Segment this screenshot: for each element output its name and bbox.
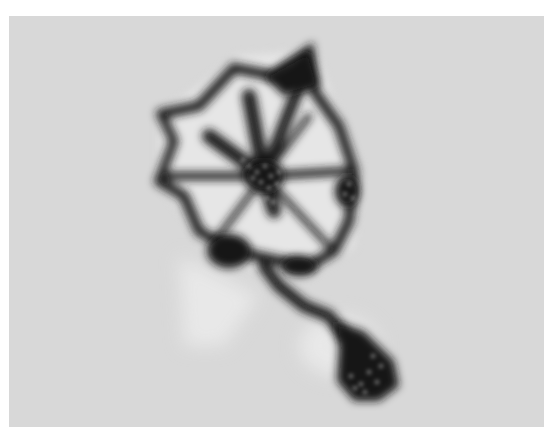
micrograph-photo xyxy=(9,16,544,427)
specimen-illustration xyxy=(9,16,544,427)
